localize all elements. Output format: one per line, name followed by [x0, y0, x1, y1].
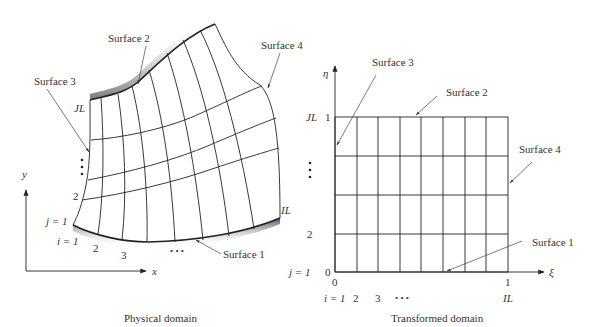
t-j-dots	[309, 162, 312, 179]
x-axis-label: x	[151, 265, 157, 277]
physical-jl-label: JL	[74, 102, 85, 114]
surface-3-leader	[47, 89, 89, 152]
t-surface-4-label: Surface 4	[519, 143, 561, 155]
t-surface-1-leader	[447, 241, 522, 271]
physical-domain: Surface 2 Surface 4 Surface 3 Surface 1 …	[21, 18, 303, 324]
t-j1-label: j = 1	[287, 266, 310, 278]
physical-domain-caption: Physical domain	[124, 312, 198, 324]
surface-4-leader	[268, 53, 280, 88]
t-i2-label: 2	[353, 292, 359, 304]
physical-j-dots	[81, 159, 84, 176]
xi-tick-0: 0	[332, 276, 338, 288]
surface-2-wall-shading	[90, 18, 215, 100]
y-axis-label: y	[21, 168, 27, 180]
grid-transformation-diagram: Surface 2 Surface 4 Surface 3 Surface 1 …	[0, 0, 594, 327]
physical-grid	[73, 24, 280, 242]
eta-tick-1: 1	[325, 111, 331, 123]
transformed-grid	[335, 117, 508, 272]
physical-i3-label: 3	[121, 249, 127, 261]
physical-i-dots: • • •	[170, 246, 184, 256]
t-jl-label: JL	[306, 111, 317, 123]
surface-3-label: Surface 3	[34, 75, 76, 87]
t-surface-1-label: Surface 1	[532, 236, 574, 248]
t-surface-4-leader	[510, 162, 532, 183]
surface-1-wall-shading	[73, 218, 280, 248]
t-i3-label: 3	[375, 292, 381, 304]
t-j2-label: 2	[307, 228, 313, 240]
transformed-domain-caption: Transformed domain	[391, 312, 484, 324]
surface-2-label: Surface 2	[108, 32, 150, 44]
eta-axis-label: η	[323, 67, 328, 79]
xi-tick-1: 1	[505, 276, 511, 288]
t-surface-3-leader	[337, 75, 376, 145]
physical-il-label: IL	[280, 204, 291, 216]
physical-i1-label: i = 1	[57, 235, 78, 247]
t-i-dots: • • •	[395, 293, 409, 303]
t-surface-2-label: Surface 2	[446, 86, 488, 98]
surface-1-label: Surface 1	[223, 248, 265, 260]
physical-j1-label: j = 1	[44, 215, 67, 227]
t-surface-3-label: Surface 3	[372, 56, 414, 68]
surface-4-label: Surface 4	[261, 39, 303, 51]
transformed-domain: Surface 3 Surface 2 Surface 4 Surface 1 …	[287, 56, 574, 324]
physical-i2-label: 2	[93, 242, 99, 254]
eta-tick-0: 0	[325, 266, 331, 278]
t-surface-2-leader	[416, 96, 437, 115]
t-i1-label: i = 1	[324, 292, 345, 304]
xi-axis-label: ξ	[549, 266, 554, 279]
physical-j2-label: 2	[73, 190, 79, 202]
t-il-label: IL	[502, 292, 513, 304]
computational-boundary	[335, 117, 508, 272]
surface-3-boundary	[73, 100, 90, 225]
